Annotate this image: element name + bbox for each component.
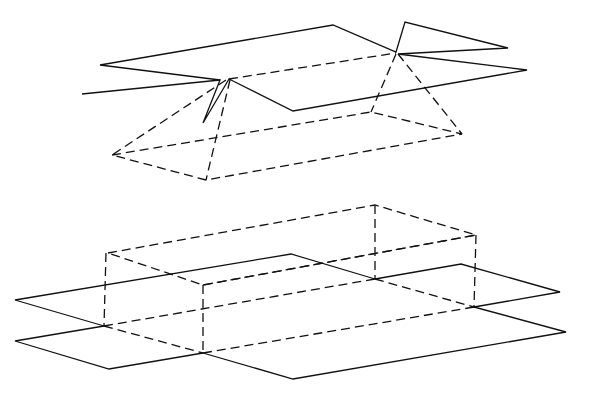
box-bottom-edge-back-long bbox=[104, 279, 375, 326]
top-figure bbox=[82, 22, 527, 180]
top-net-outline-upper bbox=[82, 22, 527, 123]
box-bottom-edge-right-short bbox=[375, 279, 474, 307]
top-net-solid-lines bbox=[82, 22, 527, 123]
box-vertical-edge-back-right bbox=[474, 235, 476, 307]
top-right-slant-edge-back bbox=[371, 54, 396, 112]
top-right-slant-edge-front bbox=[398, 54, 462, 134]
bottom-figure bbox=[15, 205, 566, 379]
bottom-net-left-flap-bottom bbox=[15, 326, 203, 369]
top-left-slant-edge-front bbox=[112, 80, 226, 155]
bottom-folded-box-dashed-lines bbox=[104, 205, 476, 353]
bottom-net-right-flap-top bbox=[375, 264, 560, 307]
top-left-slant-edge-back bbox=[206, 80, 230, 180]
box-middle-crease bbox=[203, 235, 476, 285]
top-ridge-edge bbox=[229, 53, 396, 79]
bottom-net-main-panel bbox=[203, 307, 566, 379]
top-folded-solid-dashed-lines bbox=[112, 53, 462, 180]
box-bottom-edge-front-long bbox=[203, 307, 474, 353]
box-vertical-edge-front-left bbox=[104, 253, 106, 326]
bottom-net-left-flap-top bbox=[15, 254, 375, 326]
top-base-rectangle bbox=[112, 112, 462, 180]
bottom-net-solid-lines bbox=[15, 254, 566, 379]
box-top-face bbox=[108, 205, 476, 285]
diagram-canvas bbox=[0, 0, 589, 400]
box-bottom-edge-left-short bbox=[104, 326, 203, 353]
